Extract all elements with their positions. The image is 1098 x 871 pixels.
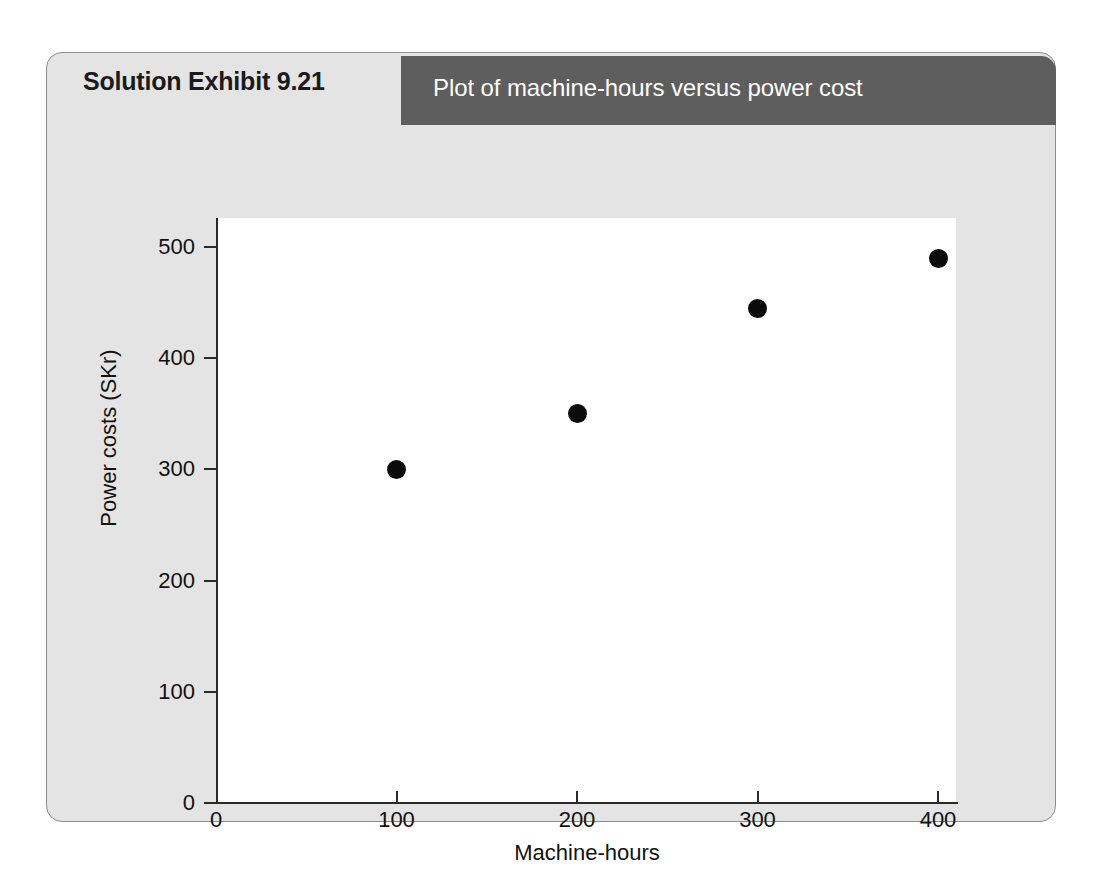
y-axis-tick-label: 200: [158, 568, 195, 594]
scatter-chart: 0100200300400500 0100200300400 Power cos…: [47, 125, 1057, 823]
exhibit-header: Solution Exhibit 9.21 Plot of machine-ho…: [47, 53, 1055, 125]
x-axis-tick-label: 400: [920, 807, 957, 833]
y-axis-tick: 100: [204, 691, 216, 693]
data-point: [929, 249, 948, 268]
y-axis-tick: 400: [204, 357, 216, 359]
x-axis-tick: 200: [576, 791, 578, 803]
y-axis-tick-label: 500: [158, 234, 195, 260]
exhibit-panel: Solution Exhibit 9.21 Plot of machine-ho…: [46, 52, 1056, 822]
x-axis-tick-label: 0: [210, 807, 222, 833]
x-axis-tick-label: 200: [559, 807, 596, 833]
x-axis-tick: 100: [396, 791, 398, 803]
y-axis-line: [216, 218, 218, 804]
y-axis-tick-label: 100: [158, 679, 195, 705]
data-point: [748, 299, 767, 318]
y-axis-tick: 0: [204, 802, 216, 804]
x-axis-title: Machine-hours: [216, 840, 958, 866]
y-axis-title: Power costs (SKr): [96, 288, 122, 588]
x-axis-tick: 400: [937, 791, 939, 803]
data-point: [387, 460, 406, 479]
y-axis-tick: 200: [204, 580, 216, 582]
y-axis-tick-label: 400: [158, 345, 195, 371]
y-axis-tick: 500: [204, 246, 216, 248]
y-axis-tick: 300: [204, 468, 216, 470]
x-axis-tick-label: 100: [378, 807, 415, 833]
exhibit-number-label: Solution Exhibit 9.21: [83, 67, 325, 96]
exhibit-title: Plot of machine-hours versus power cost: [433, 74, 863, 102]
x-axis-tick-label: 300: [739, 807, 776, 833]
y-axis-tick-label: 300: [158, 456, 195, 482]
y-axis-tick-label: 0: [183, 790, 195, 816]
x-axis-tick: 300: [757, 791, 759, 803]
data-point: [568, 404, 587, 423]
x-axis-line: [216, 802, 958, 804]
exhibit-title-bar: Plot of machine-hours versus power cost: [401, 56, 1056, 125]
plot-area: [216, 218, 956, 803]
